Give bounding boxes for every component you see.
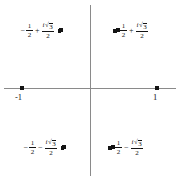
point-dot-bottom-right bbox=[108, 146, 112, 150]
fraction-one-half: 1 2 bbox=[115, 140, 122, 156]
fraction-i-root-three-over-two: i √ 3 2 bbox=[136, 22, 149, 40]
label-top-left: − 1 2 + i √ 3 2 bbox=[19, 22, 64, 40]
tick-label-negative-one: -1 bbox=[15, 93, 22, 102]
minus-sign: − bbox=[24, 144, 29, 152]
numerator: 1 bbox=[30, 140, 36, 148]
plus-sign: + bbox=[35, 27, 40, 35]
radical: √ 3 bbox=[139, 22, 147, 31]
denominator: 2 bbox=[27, 31, 33, 39]
radical: √ 3 bbox=[48, 139, 56, 148]
fraction-one-half: 1 2 bbox=[29, 140, 36, 156]
radicand: 3 bbox=[143, 23, 148, 31]
numerator: 1 bbox=[27, 23, 33, 31]
minus-sign: − bbox=[21, 27, 26, 35]
label-bottom-right: 1 2 − i √ 3 2 bbox=[108, 139, 144, 157]
point-dot-top-right bbox=[113, 29, 117, 33]
denominator: 2 bbox=[48, 149, 54, 157]
point-dot-top-left bbox=[58, 29, 62, 33]
fraction-one-half: 1 2 bbox=[26, 23, 33, 39]
denominator: 2 bbox=[30, 148, 36, 156]
numerator: 1 bbox=[121, 23, 127, 31]
radicand: 3 bbox=[138, 140, 143, 148]
label-bottom-left: − 1 2 − i √ 3 2 bbox=[22, 139, 67, 157]
point-dot-bottom-left bbox=[61, 146, 65, 150]
minus-sign: − bbox=[124, 144, 129, 152]
numerator: 1 bbox=[116, 140, 122, 148]
point-marker-negative-one bbox=[20, 86, 24, 90]
imaginary-axis bbox=[90, 5, 91, 176]
radicand: 3 bbox=[49, 23, 54, 31]
numerator: i √ 3 bbox=[42, 22, 55, 31]
denominator: 2 bbox=[116, 148, 122, 156]
fraction-i-root-three-over-two: i √ 3 2 bbox=[45, 139, 58, 157]
fraction-i-root-three-over-two: i √ 3 2 bbox=[131, 139, 144, 157]
numerator: i √ 3 bbox=[45, 139, 58, 148]
radical: √ 3 bbox=[45, 22, 53, 31]
denominator: 2 bbox=[139, 32, 145, 40]
denominator: 2 bbox=[121, 31, 127, 39]
point-marker-positive-one bbox=[155, 86, 159, 90]
numerator: i √ 3 bbox=[136, 22, 149, 31]
minus-sign: − bbox=[38, 144, 43, 152]
plus-sign: + bbox=[129, 27, 134, 35]
complex-plane-figure: -1 1 − 1 2 + i √ 3 2 1 2 bbox=[0, 0, 179, 181]
tick-label-positive-one: 1 bbox=[153, 93, 157, 102]
label-top-right: 1 2 + i √ 3 2 bbox=[113, 22, 149, 40]
radical: √ 3 bbox=[134, 139, 142, 148]
denominator: 2 bbox=[45, 32, 51, 40]
fraction-one-half: 1 2 bbox=[120, 23, 127, 39]
radicand: 3 bbox=[52, 140, 57, 148]
fraction-i-root-three-over-two: i √ 3 2 bbox=[42, 22, 55, 40]
numerator: i √ 3 bbox=[131, 139, 144, 148]
denominator: 2 bbox=[134, 149, 140, 157]
